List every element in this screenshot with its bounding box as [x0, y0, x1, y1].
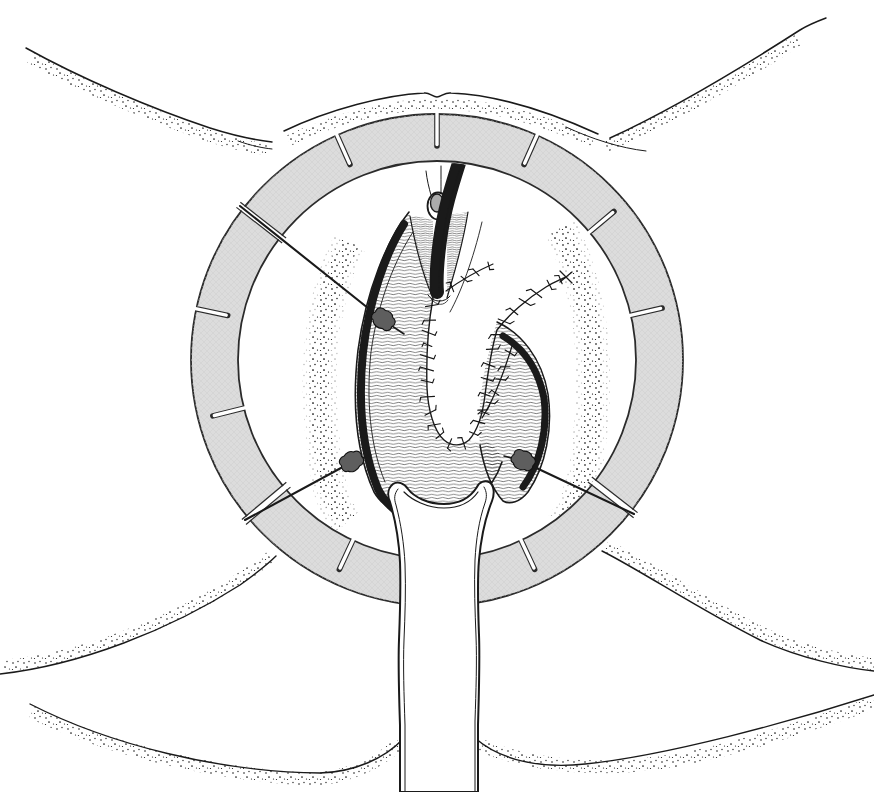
- suture-tick: [421, 396, 435, 397]
- illustration-canvas: [0, 0, 874, 792]
- suture-knot: [469, 269, 474, 270]
- vaginal-stent: [388, 481, 493, 792]
- surgical-illustration: [0, 0, 874, 792]
- suture-knot: [552, 289, 556, 290]
